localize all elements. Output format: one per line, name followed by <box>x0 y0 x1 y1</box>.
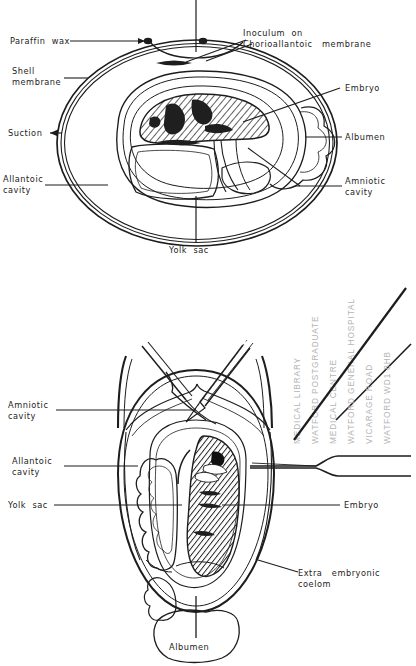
label-inoculum-on-cam: Inoculum on Chorioallantoic membrane <box>243 28 371 49</box>
stamp-strike-through <box>286 268 416 448</box>
label-albumen-upper: Albumen <box>345 132 385 143</box>
label-allantoic-cavity: Allantoic cavity <box>3 174 43 195</box>
label-embryo-lower: Embryo <box>344 500 379 511</box>
label-extra-embryonic-coelom: Extra embryonic coelom <box>298 568 380 589</box>
label-yolk-sac: Yolk sac <box>169 245 209 256</box>
label-albumen-lower: Albumen <box>169 642 209 653</box>
label-shell-membrane: Shell membrane <box>12 66 61 87</box>
label-yolk-sac-lower: Yolk sac <box>8 500 48 511</box>
label-suction: Suction <box>8 128 42 139</box>
label-embryo-upper: Embryo <box>345 83 380 94</box>
label-amniotic-cavity-lower: Amniotic cavity <box>8 400 48 421</box>
label-amniotic-cavity: Amniotic cavity <box>345 176 385 197</box>
label-paraffin-wax: Paraffin wax <box>8 36 70 47</box>
library-stamp: MEDICAL LIBRARY WATFORD POSTGRADUATE MED… <box>286 268 416 448</box>
label-allantoic-cavity-lower: Allantoic cavity <box>12 456 52 477</box>
